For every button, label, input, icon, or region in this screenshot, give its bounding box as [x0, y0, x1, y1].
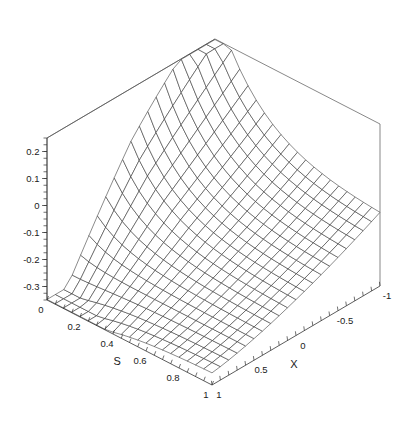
x-axis-minor-tick — [321, 316, 322, 320]
x-axis-minor-tick — [270, 346, 271, 350]
s-axis-minor-tick — [171, 360, 173, 364]
x-axis-minor-tick — [262, 351, 263, 355]
x-axis-minor-tick — [237, 366, 238, 370]
x-axis-minor-tick — [354, 297, 355, 301]
x-axis-minor-tick — [363, 292, 364, 296]
tick-label: 0.8 — [166, 372, 179, 383]
s-axis-minor-tick — [204, 377, 206, 381]
s-axis-minor-tick — [154, 351, 156, 355]
tick-label: -0.2 — [23, 254, 39, 265]
x-axis-minor-tick — [304, 326, 305, 330]
s-axis-minor-tick — [196, 373, 198, 377]
x-axis-minor-tick — [287, 336, 288, 340]
tick-label: 0 — [38, 304, 43, 315]
x-axis-minor-tick — [245, 361, 246, 365]
tick-label: -0.5 — [337, 315, 353, 326]
tick-label: 0.2 — [67, 321, 80, 332]
surface-plot-figure: 00.20.40.60.81S10.50-0.5-1X0.20.10-0.1-0… — [0, 0, 403, 422]
x-axis-minor-tick — [337, 307, 338, 311]
tick-label: 0.1 — [26, 173, 39, 184]
tick-label: 0.2 — [26, 146, 39, 157]
x-axis-minor-tick — [346, 302, 347, 306]
tick-label: 1 — [203, 389, 208, 400]
surface-mesh — [47, 40, 380, 373]
tick-label: 0.4 — [100, 338, 113, 349]
tick-label: 0 — [34, 200, 39, 211]
tick-label: 1 — [216, 389, 221, 400]
axis-title: X — [290, 358, 298, 370]
x-axis-minor-tick — [228, 371, 229, 375]
tick-label: -0.3 — [23, 281, 39, 292]
plot-canvas: 00.20.40.60.81S10.50-0.5-1X0.20.10-0.1-0… — [0, 0, 403, 422]
x-axis-minor-tick — [220, 376, 221, 380]
tick-label: -0.1 — [23, 227, 39, 238]
tick-label: 0.5 — [254, 364, 267, 375]
s-axis-minor-tick — [130, 339, 132, 343]
x-axis-minor-tick — [329, 312, 330, 316]
x-axis-minor-tick — [295, 331, 296, 335]
s-axis-minor-tick — [146, 347, 148, 351]
tick-label: 0 — [300, 340, 305, 351]
axis-title: S — [114, 355, 121, 367]
x-axis-minor-tick — [312, 321, 313, 325]
s-axis-minor-tick — [179, 364, 181, 368]
x-axis-minor-tick — [371, 287, 372, 291]
tick-label: -1 — [383, 290, 391, 301]
s-axis-minor-tick — [163, 356, 165, 360]
tick-label: 0.6 — [133, 355, 146, 366]
x-axis-minor-tick — [253, 356, 254, 360]
s-axis-minor-tick — [138, 343, 140, 347]
x-axis-minor-tick — [279, 341, 280, 345]
s-axis-minor-tick — [187, 368, 189, 372]
